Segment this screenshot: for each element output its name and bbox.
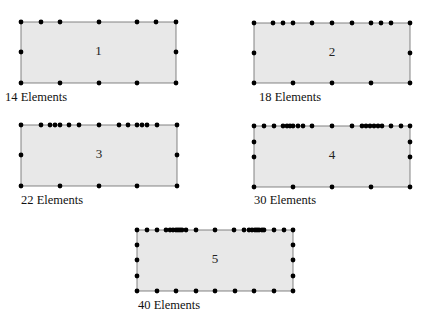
mesh-node-dot	[272, 289, 277, 294]
mesh-node-dot	[213, 289, 218, 294]
mesh-node-dot	[135, 274, 140, 279]
mesh-node-dot	[174, 20, 179, 25]
mesh-node-dot	[310, 21, 315, 26]
mesh-node-dot	[97, 20, 102, 25]
mesh-node-dot	[408, 81, 413, 86]
mesh-node-dot	[77, 123, 82, 128]
mesh-node-dot	[252, 289, 257, 294]
mesh-node-dot	[135, 228, 140, 233]
mesh-node-dot	[145, 123, 150, 128]
mesh-node-dot	[19, 20, 24, 25]
panel-number: 3	[96, 146, 103, 161]
mesh-node-dot	[330, 185, 335, 190]
mesh-node-dot	[19, 123, 24, 128]
mesh-node-dot	[135, 123, 140, 128]
mesh-node-dot	[58, 20, 63, 25]
mesh-node-dot	[233, 289, 238, 294]
mesh-node-dot	[53, 123, 58, 128]
mesh-node-dot	[330, 124, 335, 129]
mesh-node-dot	[58, 81, 63, 86]
mesh-node-dot	[252, 155, 257, 160]
mesh-node-dot	[135, 289, 140, 294]
mesh-node-dot	[291, 185, 296, 190]
mesh-node-dot	[291, 243, 296, 248]
mesh-node-dot	[155, 289, 160, 294]
mesh-node-dot	[369, 185, 374, 190]
mesh-node-dot	[291, 21, 296, 26]
mesh-node-dot	[154, 20, 159, 25]
mesh-node-dot	[194, 289, 199, 294]
mesh-node-dot	[145, 228, 150, 233]
mesh-node-dot	[291, 289, 296, 294]
mesh-node-dot	[135, 20, 140, 25]
mesh-node-dot	[272, 228, 277, 233]
mesh-node-dot	[281, 21, 286, 26]
mesh-node-dot	[232, 228, 237, 233]
mesh-node-dot	[252, 81, 257, 86]
mesh-node-dot	[19, 50, 24, 55]
mesh-node-dot	[379, 21, 384, 26]
mesh-node-dot	[389, 21, 394, 26]
mesh-node-dot	[301, 124, 306, 129]
mesh-node-dot	[252, 185, 257, 190]
mesh-panel-3: 3	[19, 123, 180, 189]
mesh-node-dot	[48, 123, 53, 128]
panel-number: 2	[329, 44, 336, 59]
mesh-node-dot	[39, 123, 44, 128]
mesh-node-dot	[135, 81, 140, 86]
mesh-node-dot	[252, 140, 257, 145]
mesh-node-dot	[380, 124, 385, 129]
mesh-node-dot	[291, 81, 296, 86]
mesh-node-dot	[175, 123, 180, 128]
mesh-node-dot	[262, 228, 267, 233]
mesh-node-dot	[174, 50, 179, 55]
mesh-node-dot	[155, 123, 160, 128]
mesh-node-dot	[272, 124, 277, 129]
panel-caption-3: 22 Elements	[21, 193, 83, 208]
mesh-node-dot	[282, 228, 287, 233]
mesh-node-dot	[117, 123, 122, 128]
mesh-node-dot	[296, 124, 301, 129]
mesh-figure: 12345	[0, 0, 429, 323]
mesh-node-dot	[175, 153, 180, 158]
mesh-node-dot	[184, 228, 189, 233]
mesh-node-dot	[369, 81, 374, 86]
mesh-node-dot	[350, 124, 355, 129]
panel-caption-1: 14 Elements	[5, 90, 67, 105]
mesh-node-dot	[291, 228, 296, 233]
mesh-node-dot	[174, 81, 179, 86]
mesh-node-dot	[330, 81, 335, 86]
mesh-node-dot	[58, 184, 63, 189]
mesh-node-dot	[389, 124, 394, 129]
panel-number: 4	[329, 147, 336, 162]
mesh-node-dot	[58, 123, 63, 128]
mesh-node-dot	[252, 51, 257, 56]
mesh-node-dot	[350, 21, 355, 26]
mesh-panel-1: 1	[19, 20, 179, 86]
mesh-node-dot	[252, 124, 257, 129]
mesh-node-dot	[97, 184, 102, 189]
mesh-node-dot	[262, 124, 267, 129]
panel-number: 5	[212, 251, 219, 266]
mesh-node-dot	[19, 81, 24, 86]
mesh-node-dot	[135, 184, 140, 189]
mesh-node-dot	[126, 123, 131, 128]
panel-caption-5: 40 Elements	[138, 298, 200, 313]
mesh-node-dot	[213, 228, 218, 233]
mesh-node-dot	[291, 124, 296, 129]
panel-number: 1	[95, 43, 102, 58]
mesh-panel-5: 5	[135, 228, 296, 294]
mesh-node-dot	[408, 21, 413, 26]
mesh-node-dot	[252, 21, 257, 26]
mesh-node-dot	[408, 124, 413, 129]
mesh-node-dot	[330, 21, 335, 26]
mesh-node-dot	[155, 228, 160, 233]
mesh-node-dot	[310, 124, 315, 129]
mesh-node-dot	[135, 243, 140, 248]
mesh-node-dot	[19, 153, 24, 158]
mesh-panel-2: 2	[252, 21, 413, 86]
mesh-node-dot	[67, 123, 72, 128]
mesh-node-dot	[19, 184, 24, 189]
mesh-panel-4: 4	[252, 124, 413, 190]
mesh-node-dot	[271, 21, 276, 26]
